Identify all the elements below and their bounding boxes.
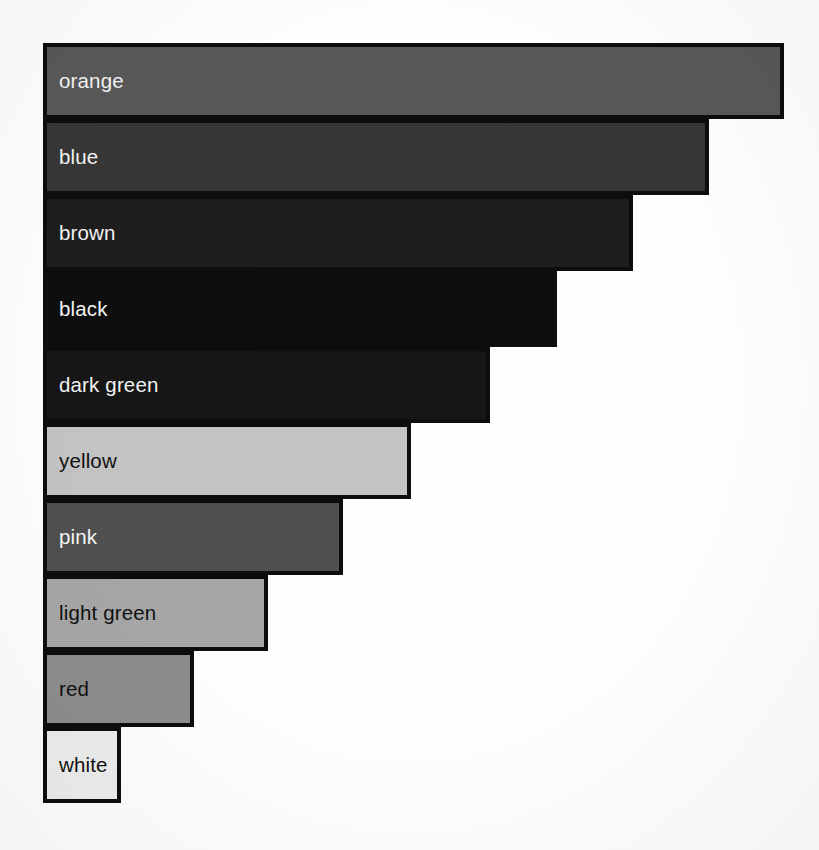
bar-row: red [43, 651, 194, 727]
bar-texture [47, 199, 629, 267]
bar-row: blue [43, 119, 709, 195]
bar-label: red [47, 679, 89, 700]
bar-label: light green [47, 603, 156, 624]
bar-texture [47, 123, 705, 191]
bar-row: light green [43, 575, 268, 651]
bar-row: orange [43, 43, 784, 119]
bar-label: pink [47, 527, 97, 548]
bar-row: brown [43, 195, 633, 271]
bar-row: pink [43, 499, 343, 575]
bar-label: orange [47, 71, 124, 92]
bar-label: black [47, 299, 108, 320]
bar-texture [47, 47, 780, 115]
bar-row: white [43, 727, 121, 803]
bar-row: yellow [43, 423, 411, 499]
bar-texture [47, 275, 553, 343]
bar-label: blue [47, 147, 98, 168]
bar-label: white [47, 755, 108, 776]
bar-label: brown [47, 223, 116, 244]
bar-label: dark green [47, 375, 159, 396]
plot-area: orangebluebrownblackdark greenyellowpink… [0, 0, 819, 850]
bar-label: yellow [47, 451, 117, 472]
bar-chart-figure: orangebluebrownblackdark greenyellowpink… [0, 0, 819, 850]
bar-row: black [43, 271, 557, 347]
bar-row: dark green [43, 347, 490, 423]
